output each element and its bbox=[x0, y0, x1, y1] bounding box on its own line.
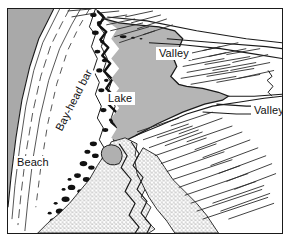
hachures-interfluve bbox=[181, 43, 274, 85]
label-valley-upper: Valley bbox=[156, 47, 192, 60]
label-valley-lower: Valley bbox=[251, 104, 283, 117]
right-margin-stream bbox=[267, 70, 273, 96]
label-lake: Lake bbox=[105, 92, 135, 105]
diagram-frame: Lake Beach Bay-head bar Valley Valley bbox=[7, 8, 283, 234]
landform-scene bbox=[8, 9, 282, 233]
figure-root: Lake Beach Bay-head bar Valley Valley bbox=[0, 0, 290, 242]
label-beach: Beach bbox=[14, 156, 52, 169]
